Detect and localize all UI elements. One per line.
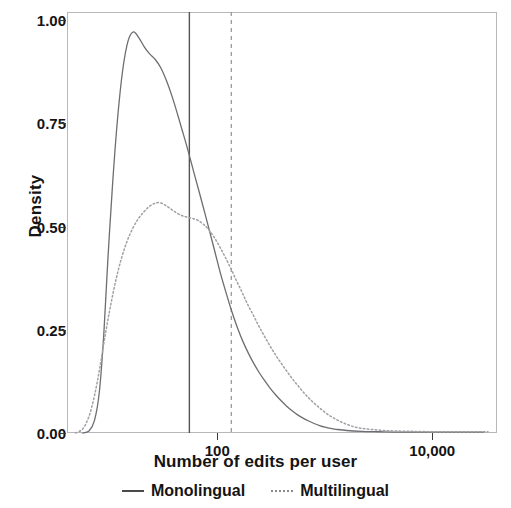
y-axis-tick-mark [59, 227, 66, 228]
y-axis-tick-mark [59, 123, 66, 124]
legend-label-monolingual: Monolingual [151, 482, 245, 500]
y-axis-tick-mark [59, 330, 66, 331]
density-curve-multilingual [76, 203, 489, 433]
plot-canvas [67, 12, 497, 433]
legend-swatch-monolingual-icon [122, 490, 144, 492]
legend-label-multilingual: Multilingual [300, 482, 389, 500]
legend-item-multilingual: Multilingual [271, 482, 389, 500]
x-axis-tick-mark [432, 433, 433, 440]
x-axis-tick-label: 10,000 [409, 442, 455, 459]
legend-swatch-multilingual-icon [271, 490, 293, 492]
density-curves [76, 32, 489, 433]
y-axis-tick-mark [59, 433, 66, 434]
density-curve-monolingual [83, 32, 484, 433]
legend-item-monolingual: Monolingual [122, 482, 245, 500]
y-axis-ticks: 0.000.250.500.751.00 [0, 0, 66, 508]
reference-lines [189, 12, 231, 433]
y-axis-tick-mark [59, 20, 66, 21]
x-axis-tick-mark [217, 433, 218, 440]
x-axis-tick-label: 100 [205, 442, 230, 459]
chart-legend: Monolingual Multilingual [0, 482, 511, 500]
density-plot-figure: Density 0.000.250.500.751.00 Number of e… [0, 0, 511, 508]
